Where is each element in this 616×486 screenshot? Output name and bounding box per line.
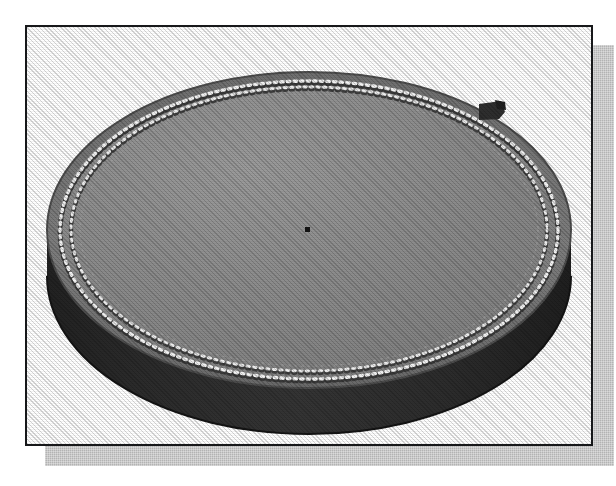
center-point <box>305 227 310 232</box>
edge-tab-notch <box>479 100 506 120</box>
illustration-frame <box>25 25 593 446</box>
disc-illustration-svg <box>27 27 591 444</box>
illustration-canvas <box>27 27 591 444</box>
figure-root <box>0 0 616 486</box>
